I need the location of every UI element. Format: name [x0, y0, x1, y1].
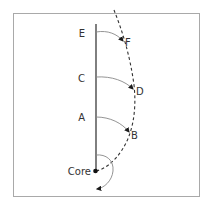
- spiral-arm-diagram: E F C D A B Core: [0, 0, 209, 207]
- dashed-spiral-curve: [96, 10, 135, 171]
- label-A: A: [78, 112, 85, 123]
- arc-E-to-F-arrow: [96, 31, 123, 41]
- label-core: Core: [68, 166, 91, 177]
- label-B: B: [131, 130, 138, 141]
- arc-A-to-B-arrow: [96, 117, 129, 132]
- label-D: D: [136, 86, 144, 97]
- core-dot: [93, 169, 98, 174]
- label-C: C: [78, 73, 85, 84]
- core-rotation-arrow: [96, 155, 113, 189]
- label-E: E: [79, 28, 85, 39]
- arc-C-to-D-arrow: [96, 77, 133, 89]
- label-F: F: [125, 37, 131, 48]
